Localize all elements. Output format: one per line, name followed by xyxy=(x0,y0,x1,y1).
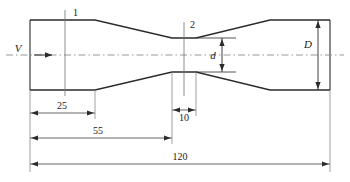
pipe-dim-arrow-bottom xyxy=(315,82,320,89)
dim-120-arrow-left xyxy=(31,162,38,167)
section-1-label: 1 xyxy=(73,7,78,18)
dim-10-arrow-right xyxy=(188,108,195,113)
section-2-label: 2 xyxy=(190,19,195,30)
dim-10-label: 10 xyxy=(179,112,189,123)
throat-dim-arrow-top xyxy=(219,39,224,46)
flow-arrow-head xyxy=(45,52,52,57)
dim-120-label: 120 xyxy=(173,151,188,162)
dim-25-arrow-left xyxy=(31,111,38,116)
dim-25-label: 25 xyxy=(57,100,67,111)
throat-dim-arrow-bottom xyxy=(219,64,224,71)
dim-25-arrow-right xyxy=(87,111,94,116)
dim-120-arrow-right xyxy=(322,162,329,167)
dim-55-arrow-right xyxy=(164,136,171,141)
pipe-dim-arrow-top xyxy=(315,21,320,28)
throat-diameter-label: d xyxy=(210,49,216,61)
dim-55-arrow-left xyxy=(31,136,38,141)
dim-55-label: 55 xyxy=(93,125,103,136)
velocity-label: V xyxy=(15,42,23,54)
pipe-top-profile xyxy=(30,20,330,38)
pipe-diameter-label: D xyxy=(303,38,312,50)
pipe-bottom-profile xyxy=(30,72,330,90)
venturi-drawing-canvas: V 1 2 d D 25 10 xyxy=(0,0,350,182)
venturi-diagram: V 1 2 d D 25 10 xyxy=(0,0,350,182)
